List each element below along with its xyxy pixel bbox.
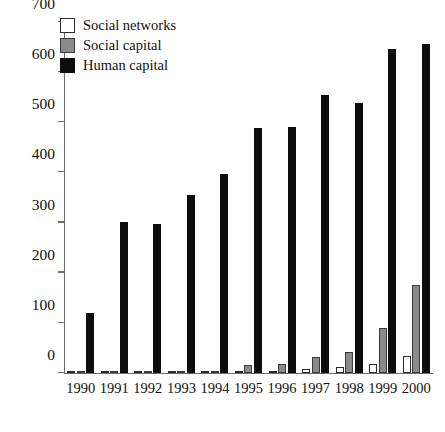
x-axis-tick-label: 1997 [301,380,330,397]
x-axis-line [64,373,433,374]
y-axis-tick-label: 0 [47,346,55,364]
x-axis-tick-label: 1995 [234,380,263,397]
x-axis-tick-label: 1993 [167,380,196,397]
bar-social-capital-2000[interactable] [412,285,420,373]
bar-social-capital-1996[interactable] [278,364,286,373]
x-axis-tick-label: 1991 [100,380,129,397]
bar-human-capital-1999[interactable] [388,49,396,373]
bar-group [399,22,433,373]
bar-chart: 0100200300400500600700 Social networksSo… [0,0,445,432]
bar-group [366,22,400,373]
x-axis-tick-label: 1990 [66,380,95,397]
bar-social-networks-1995[interactable] [235,371,243,373]
y-axis-tick-label: 100 [32,295,55,313]
bar-human-capital-1993[interactable] [187,195,195,373]
x-axis-tick-label: 1996 [268,380,297,397]
bar-social-networks-1991[interactable] [101,371,109,373]
y-axis-tick-label: 500 [32,95,55,113]
legend-swatch-icon [60,58,75,73]
bar-social-capital-1994[interactable] [211,371,219,374]
bar-social-networks-1997[interactable] [302,369,310,373]
bar-social-networks-1994[interactable] [201,371,209,373]
bar-social-capital-1990[interactable] [77,371,85,373]
bar-social-networks-1998[interactable] [336,367,344,373]
bar-social-networks-1996[interactable] [269,371,277,374]
legend-item-label: Social capital [83,37,162,54]
bar-social-networks-1992[interactable] [134,371,142,373]
y-axis-tick-label: 700 [32,0,55,13]
legend-item-human-capital[interactable]: Human capital [60,57,176,74]
y-axis-tick-label: 200 [32,245,55,263]
bar-group [64,22,98,373]
bar-group [131,22,165,373]
x-axis-tick-label: 1999 [368,380,397,397]
bar-group [265,22,299,373]
bar-group [232,22,266,373]
x-axis-tick-label: 1992 [133,380,162,397]
x-axis-tick-label: 2000 [402,380,431,397]
bar-social-capital-1991[interactable] [110,371,118,373]
bar-social-capital-1998[interactable] [345,352,353,373]
bar-social-capital-1992[interactable] [144,371,152,373]
legend-swatch-icon [60,38,75,53]
y-axis-tick-label: 400 [32,145,55,163]
chart-legend: Social networksSocial capitalHuman capit… [60,17,176,74]
bar-human-capital-2000[interactable] [422,44,430,373]
bar-social-capital-1999[interactable] [379,328,387,373]
bar-group [198,22,232,373]
legend-swatch-icon [60,18,75,33]
bar-social-capital-1995[interactable] [244,365,252,373]
bar-group [299,22,333,373]
bar-human-capital-1994[interactable] [220,174,228,373]
bar-social-capital-1997[interactable] [312,357,320,373]
legend-item-label: Human capital [83,57,168,74]
legend-item-social-networks[interactable]: Social networks [60,17,176,34]
bar-social-networks-1993[interactable] [168,371,176,373]
bar-human-capital-1991[interactable] [120,222,128,373]
bar-group [98,22,132,373]
bar-human-capital-1998[interactable] [355,103,363,373]
bar-group [332,22,366,373]
bar-social-networks-1990[interactable] [67,371,75,373]
bar-social-networks-2000[interactable] [403,356,411,373]
x-axis-tick-label: 1998 [335,380,364,397]
bar-human-capital-1996[interactable] [288,127,296,373]
y-axis-tick-label: 300 [32,195,55,213]
legend-item-label: Social networks [83,17,176,34]
y-axis-tick-label: 600 [32,45,55,63]
legend-item-social-capital[interactable]: Social capital [60,37,176,54]
bar-group [165,22,199,373]
plot-area: 0100200300400500600700 [64,22,433,373]
x-axis-tick-label: 1994 [200,380,229,397]
bar-human-capital-1990[interactable] [86,313,94,373]
bar-social-networks-1999[interactable] [369,364,377,373]
bar-social-capital-1993[interactable] [177,371,185,373]
bar-human-capital-1997[interactable] [321,95,329,373]
bar-human-capital-1992[interactable] [153,224,161,373]
bar-human-capital-1995[interactable] [254,128,262,373]
